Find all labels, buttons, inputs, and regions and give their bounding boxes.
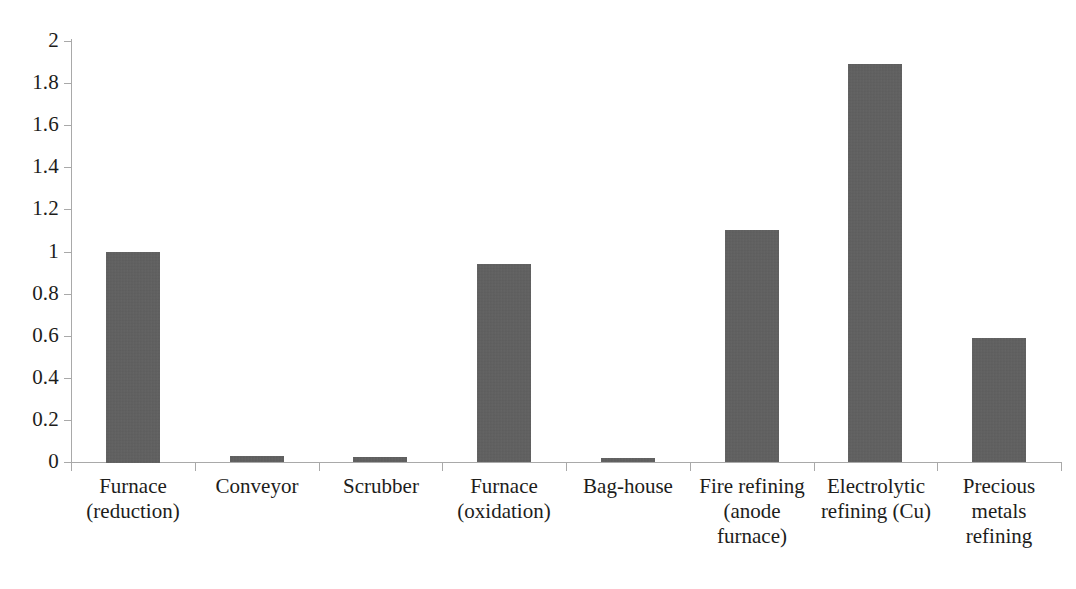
x-axis-category-label: Furnace (reduction) <box>71 474 195 524</box>
y-axis-tick-label: 1.6 <box>0 114 59 135</box>
y-axis-tick-label: 0.4 <box>0 367 59 388</box>
x-axis-tick <box>566 462 567 471</box>
bar <box>106 252 160 463</box>
x-axis-tick <box>1061 462 1062 471</box>
x-axis-category-label: Scrubber <box>319 474 443 499</box>
y-axis-tick-label: 1.4 <box>0 156 59 177</box>
x-axis-tick <box>319 462 320 471</box>
x-axis-tick <box>442 462 443 471</box>
bar <box>601 458 655 462</box>
y-axis-tick-label: 2 <box>0 30 59 51</box>
x-axis-category-label: Electrolytic refining (Cu) <box>814 474 938 524</box>
y-axis-tick-label: 0 <box>0 451 59 472</box>
y-axis-tick-label: 1 <box>0 241 59 262</box>
x-axis-tick <box>195 462 196 471</box>
y-axis-tick <box>64 125 72 126</box>
x-axis-tick <box>937 462 938 471</box>
plot-area <box>72 41 1060 462</box>
x-axis-tick <box>71 462 72 471</box>
x-axis-category-label: Furnace (oxidation) <box>442 474 566 524</box>
x-axis-category-label: Conveyor <box>195 474 319 499</box>
bar <box>477 264 531 462</box>
bar-chart: 21.81.61.41.210.80.60.40.20 Furnace (red… <box>0 0 1076 589</box>
x-axis-category-label: Bag-house <box>566 474 690 499</box>
bar <box>230 456 284 462</box>
bar <box>353 457 407 462</box>
x-axis-tick <box>690 462 691 471</box>
y-axis-tick-label: 0.6 <box>0 325 59 346</box>
y-axis-tick-label: 1.8 <box>0 72 59 93</box>
y-axis-tick-label: 0.8 <box>0 283 59 304</box>
y-axis-tick <box>64 41 72 42</box>
x-axis-tick <box>814 462 815 471</box>
y-axis-tick <box>64 294 72 295</box>
y-axis-tick <box>64 252 72 253</box>
x-axis-category-label: Fire refining (anode furnace) <box>690 474 814 549</box>
bar <box>725 230 779 462</box>
y-axis-tick <box>64 420 72 421</box>
y-axis-tick <box>64 167 72 168</box>
y-axis-tick <box>64 83 72 84</box>
y-axis-tick <box>64 209 72 210</box>
x-axis-category-label: Precious metals refining <box>937 474 1061 549</box>
y-axis-tick-label: 0.2 <box>0 409 59 430</box>
bar <box>848 64 902 462</box>
y-axis-tick <box>64 378 72 379</box>
bar <box>972 338 1026 462</box>
y-axis-tick <box>64 336 72 337</box>
y-axis-tick-label: 1.2 <box>0 198 59 219</box>
